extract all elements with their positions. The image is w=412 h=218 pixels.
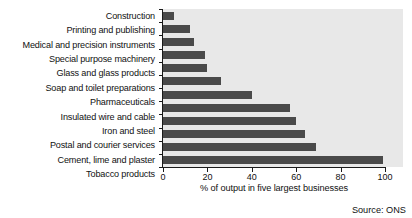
bar [163, 156, 383, 164]
y-axis-tick [159, 9, 162, 10]
x-axis-tick [252, 168, 253, 172]
bar [163, 91, 252, 99]
y-axis-tick [159, 101, 162, 102]
y-axis-tick [159, 62, 162, 63]
x-axis-line [162, 167, 386, 168]
bar [163, 64, 207, 72]
bar [163, 25, 190, 33]
bar [163, 38, 194, 46]
category-label: Pharmaceuticals [0, 95, 159, 109]
y-axis-tick [159, 154, 162, 155]
x-axis-title: % of output in five largest businesses [163, 183, 385, 193]
bar-row [163, 114, 403, 127]
bar [163, 117, 296, 125]
category-label: Printing and publishing [0, 23, 159, 37]
category-label: Medical and precision instruments [0, 38, 159, 52]
y-axis-tick [159, 141, 162, 142]
category-axis-labels: Construction Printing and publishing Med… [0, 9, 159, 167]
bar [163, 51, 205, 59]
bar-row [163, 49, 403, 62]
category-label: Special purpose machinery [0, 52, 159, 66]
category-label: Cement, lime and plaster [0, 153, 159, 167]
x-axis-tick-label: 20 [202, 172, 212, 182]
bar-row [163, 62, 403, 75]
bar [163, 143, 316, 151]
category-label: Soap and toilet preparations [0, 81, 159, 95]
y-axis-line [162, 9, 163, 168]
x-axis-tick [163, 168, 164, 172]
source-note: Source: ONS [352, 205, 406, 215]
x-axis-tick-label: 40 [247, 172, 257, 182]
bar [163, 130, 305, 138]
x-axis-tick [296, 168, 297, 172]
category-label: Glass and glass products [0, 66, 159, 80]
bar [163, 104, 290, 112]
y-axis-tick [159, 114, 162, 115]
bar-row [163, 128, 403, 141]
x-axis-tick-label: 100 [377, 172, 392, 182]
y-axis-tick [159, 88, 162, 89]
bar [163, 77, 221, 85]
bar-row [163, 154, 403, 167]
category-label: Insulated wire and cable [0, 110, 159, 124]
bar-row [163, 22, 403, 35]
bar-row [163, 35, 403, 48]
bar-row [163, 88, 403, 101]
x-axis-tick-label: 80 [336, 172, 346, 182]
category-label: Iron and steel [0, 124, 159, 138]
category-label: Construction [0, 9, 159, 23]
bar-row [163, 101, 403, 114]
y-axis-tick [159, 22, 162, 23]
y-axis-tick [159, 75, 162, 76]
x-axis-tick [385, 168, 386, 172]
x-axis-tick-label: 60 [291, 172, 301, 182]
x-axis-tick [341, 168, 342, 172]
x-axis-tick-label: 0 [160, 172, 165, 182]
category-label: Postal and courier services [0, 138, 159, 152]
category-label: Tobacco products [0, 167, 159, 181]
bar-row [163, 75, 403, 88]
bar-chart: Construction Printing and publishing Med… [0, 0, 412, 218]
bar-series [163, 9, 403, 167]
bar-row [163, 9, 403, 22]
y-axis-tick [159, 128, 162, 129]
x-axis-tick [207, 168, 208, 172]
bar [163, 12, 174, 20]
y-axis-tick [159, 35, 162, 36]
y-axis-tick [159, 167, 162, 168]
y-axis-tick [159, 49, 162, 50]
bar-row [163, 141, 403, 154]
